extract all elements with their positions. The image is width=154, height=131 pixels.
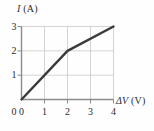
x-tick-label: 3 xyxy=(84,106,98,117)
x-tick-label: 0 xyxy=(15,106,29,117)
gridlines xyxy=(22,27,114,100)
y-tick-label: 0 xyxy=(5,106,17,117)
x-tick-label: 2 xyxy=(61,106,75,117)
y-tick-label: 3 xyxy=(5,21,17,32)
y-tick-label: 2 xyxy=(5,45,17,56)
y-axis-unit: (A) xyxy=(23,3,37,14)
x-axis-symbol: ΔV xyxy=(116,95,128,106)
axis-tick-marks xyxy=(18,27,114,104)
iv-characteristic-chart: I (A) ΔV (V) 01234 0123 xyxy=(0,0,154,131)
x-tick-label: 4 xyxy=(107,106,121,117)
x-axis-label: ΔV (V) xyxy=(116,95,146,106)
y-tick-label: 1 xyxy=(5,69,17,80)
x-tick-label: 1 xyxy=(38,106,52,117)
x-axis-unit: (V) xyxy=(131,95,145,106)
y-axis-label: I (A) xyxy=(17,3,38,14)
